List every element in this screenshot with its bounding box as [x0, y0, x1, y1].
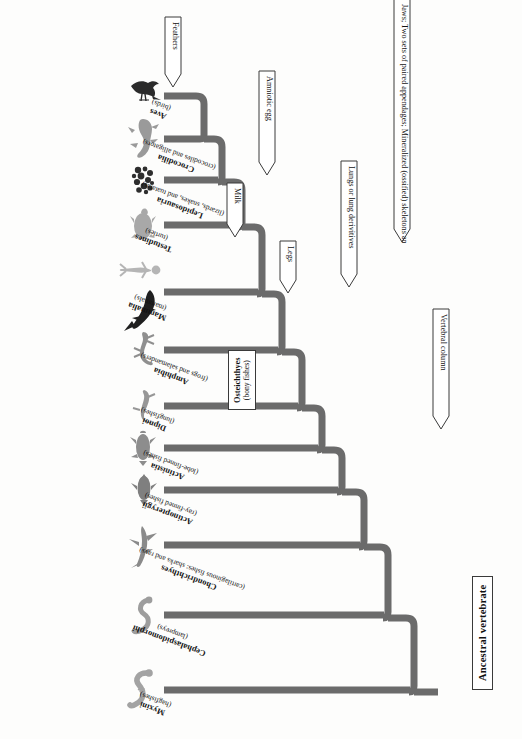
trait-label: Feathers	[171, 22, 180, 50]
trait-label: Milk	[233, 188, 242, 205]
trait-arrow-feathers: Feathers	[164, 16, 182, 88]
trait-arrow-milk: Milk	[226, 182, 244, 238]
clade-label-osteichthyes: Osteichthyes (bony fishes)	[228, 350, 256, 410]
trait-arrow-vertebral-column: Vertebral column	[432, 308, 450, 430]
trait-arrow-lungs: Lungs or lung derivitives	[340, 160, 358, 288]
trait-arrow-legs: Legs	[279, 240, 297, 294]
clade-sci-name: Osteichthyes	[233, 357, 242, 403]
trait-label: Lungs or lung derivitives	[347, 166, 356, 249]
root-label-ancestral-vertebrate: Ancestral vertebrate	[472, 576, 493, 690]
trait-arrow-amniotic-egg: Amniotic egg	[258, 70, 276, 176]
cladogram-figure: Aves (birds) Crocodilia (crocodiles and …	[0, 0, 522, 739]
root-label-text: Ancestral vertebrate	[477, 585, 488, 681]
trait-label: Amniotic egg	[265, 76, 274, 121]
trait-label: Vertebral column	[439, 314, 448, 371]
trait-label: Legs	[286, 246, 295, 262]
clade-common-name: (bony fishes)	[243, 357, 252, 403]
human-silhouette	[116, 258, 162, 282]
trait-label: Jaws; Two sets of paired appendages; Min…	[400, 4, 409, 243]
trait-arrow-jaws: Jaws; Two sets of paired appendages; Min…	[393, 0, 411, 243]
